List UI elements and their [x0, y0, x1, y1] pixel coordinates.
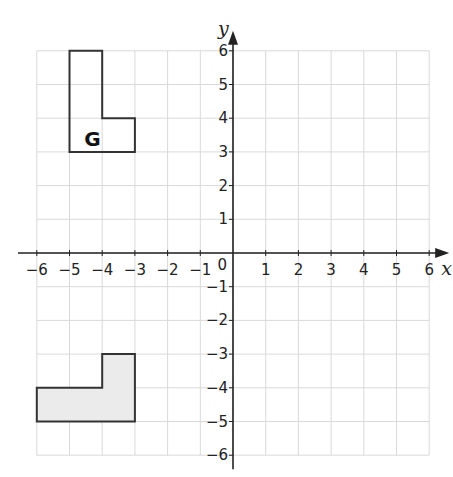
x-tick-label: 6: [424, 261, 434, 279]
y-tick-label: 1: [218, 210, 228, 228]
y-tick-label: 4: [218, 109, 228, 127]
y-tick-label: −3: [206, 345, 228, 363]
y-tick-label: 5: [218, 76, 228, 94]
x-tick-label: −3: [124, 261, 146, 279]
x-tick-label: 5: [392, 261, 402, 279]
x-tick-label: −1: [189, 261, 211, 279]
y-tick-label: −5: [206, 413, 228, 431]
x-tick-label: 2: [294, 261, 304, 279]
y-tick-label: 2: [218, 177, 228, 195]
y-tick-label: 6: [218, 42, 228, 60]
x-axis-label: x: [441, 257, 452, 279]
coordinate-grid: G xy−6−5−4−3−2−1123456654321−1−2−3−4−5−6…: [0, 0, 453, 477]
y-axis-label: y: [217, 17, 229, 39]
shape-image: [37, 354, 135, 421]
shapes: G: [37, 51, 135, 422]
y-tick-label: −4: [206, 379, 228, 397]
y-tick-label: −6: [206, 446, 228, 464]
y-tick-label: −2: [206, 311, 228, 329]
x-tick-label: 1: [261, 261, 271, 279]
x-tick-label: −6: [26, 261, 48, 279]
y-tick-label: −1: [206, 278, 228, 296]
y-tick-label: 3: [218, 143, 228, 161]
x-tick-label: 3: [326, 261, 336, 279]
x-tick-label: 4: [359, 261, 369, 279]
y-axis-arrow-icon: [228, 31, 238, 45]
shape-label-G: G: [84, 127, 100, 151]
origin-label: 0: [217, 256, 227, 274]
x-tick-label: −5: [58, 261, 80, 279]
x-tick-label: −4: [91, 261, 113, 279]
x-tick-label: −2: [157, 261, 179, 279]
